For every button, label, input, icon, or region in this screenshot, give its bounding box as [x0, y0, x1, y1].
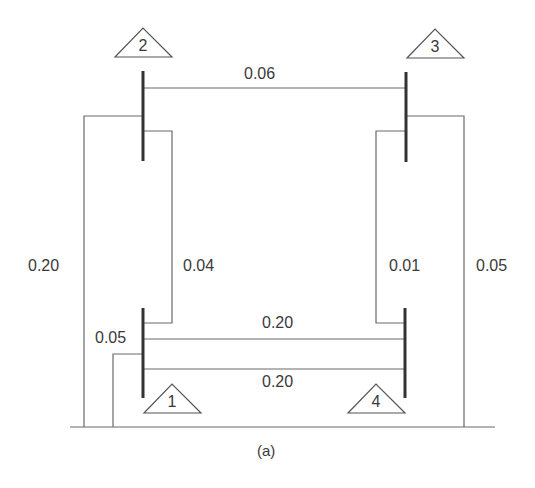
bus-3-label: 3: [425, 39, 445, 55]
bus-2-label: 2: [133, 38, 153, 54]
impedance-2-3: 0.06: [244, 66, 275, 82]
impedance-1-ground: 0.05: [95, 330, 126, 346]
impedance-2-ground: 0.20: [28, 258, 59, 274]
impedance-1-4-lower: 0.20: [262, 374, 293, 390]
impedance-3-ground: 0.05: [476, 258, 507, 274]
branch-3-4: [376, 131, 405, 323]
figure-caption: (a): [257, 443, 275, 458]
bus-4-label: 4: [366, 394, 386, 410]
impedance-3-4: 0.01: [389, 258, 420, 274]
branch-2-1: [143, 131, 172, 323]
impedance-1-4-upper: 0.20: [262, 315, 293, 331]
bus-1-label: 1: [162, 394, 182, 410]
impedance-2-1: 0.04: [183, 258, 214, 274]
branch-1-ground: [113, 354, 143, 427]
